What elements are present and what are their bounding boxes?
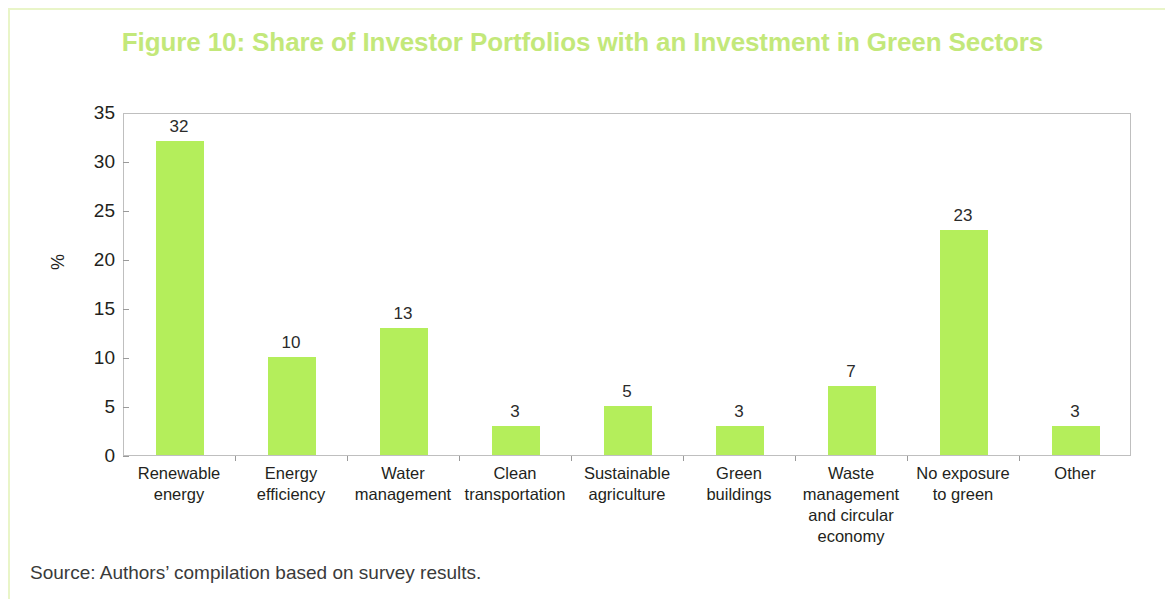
x-axis-tick-mark bbox=[235, 456, 236, 461]
bar bbox=[492, 426, 540, 455]
x-axis-tick-label: Watermanagement bbox=[347, 463, 459, 505]
y-axis-tick-label: 10 bbox=[73, 347, 115, 369]
y-axis-tick-mark bbox=[123, 358, 129, 359]
x-axis-tick-mark bbox=[571, 456, 572, 461]
page-frame-left-border bbox=[8, 8, 10, 599]
x-axis-tick-label: Cleantransportation bbox=[459, 463, 571, 505]
page-frame-top-border bbox=[8, 8, 1165, 10]
y-axis-tick-label: 0 bbox=[73, 445, 115, 467]
x-axis-tick-mark bbox=[1019, 456, 1020, 461]
figure-title: Figure 10: Share of Investor Portfolios … bbox=[0, 27, 1165, 58]
bar-value-label: 3 bbox=[699, 402, 779, 422]
bar-value-label: 13 bbox=[363, 304, 443, 324]
x-axis-tick-label: Wastemanagementand circulareconomy bbox=[795, 463, 907, 547]
y-axis-tick-mark bbox=[123, 309, 129, 310]
bar bbox=[380, 328, 428, 455]
y-axis-tick-mark bbox=[123, 162, 129, 163]
bar bbox=[156, 141, 204, 455]
y-axis-tick-mark bbox=[123, 211, 129, 212]
bar-series bbox=[124, 114, 1130, 455]
y-axis-tick-label: 15 bbox=[73, 298, 115, 320]
bar-chart-plot-area bbox=[123, 113, 1131, 456]
x-axis-tick-mark bbox=[347, 456, 348, 461]
x-axis-tick-label: Energyefficiency bbox=[235, 463, 347, 505]
bar bbox=[1052, 426, 1100, 455]
y-axis-tick-mark bbox=[123, 456, 129, 457]
x-axis-tick-label: Greenbuildings bbox=[683, 463, 795, 505]
figure-page: Figure 10: Share of Investor Portfolios … bbox=[0, 0, 1165, 599]
bar bbox=[716, 426, 764, 455]
bar-value-label: 5 bbox=[587, 382, 667, 402]
bar-value-label: 3 bbox=[1035, 402, 1115, 422]
y-axis-tick-labels: 05101520253035 bbox=[65, 113, 115, 456]
y-axis-tick-label: 25 bbox=[73, 200, 115, 222]
bar-value-label: 23 bbox=[923, 206, 1003, 226]
bar bbox=[940, 230, 988, 455]
bar bbox=[268, 357, 316, 455]
x-axis-tick-label: Renewableenergy bbox=[123, 463, 235, 505]
y-axis-tick-label: 5 bbox=[73, 396, 115, 418]
y-axis-tick-label: 35 bbox=[73, 102, 115, 124]
x-axis-tick-label: Other bbox=[1019, 463, 1131, 484]
x-axis-tick-label: Sustainableagriculture bbox=[571, 463, 683, 505]
x-axis-tick-mark bbox=[795, 456, 796, 461]
x-axis-tick-mark bbox=[683, 456, 684, 461]
y-axis-tick-label: 20 bbox=[73, 249, 115, 271]
bar bbox=[604, 406, 652, 455]
bar-value-label: 7 bbox=[811, 362, 891, 382]
bar-value-label: 3 bbox=[475, 402, 555, 422]
bar-value-label: 10 bbox=[251, 333, 331, 353]
x-axis-tick-mark bbox=[459, 456, 460, 461]
y-axis-tick-label: 30 bbox=[73, 151, 115, 173]
x-axis-tick-label: No exposureto green bbox=[907, 463, 1019, 505]
y-axis-tick-mark bbox=[123, 407, 129, 408]
x-axis-tick-mark bbox=[907, 456, 908, 461]
bar bbox=[828, 386, 876, 455]
bar-value-label: 32 bbox=[139, 117, 219, 137]
y-axis-tick-mark bbox=[123, 260, 129, 261]
source-note: Source: Authors’ compilation based on su… bbox=[30, 562, 481, 584]
